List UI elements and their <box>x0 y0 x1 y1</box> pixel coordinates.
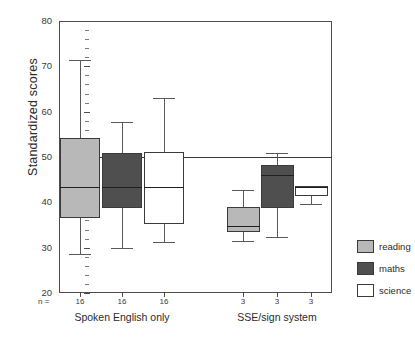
y-tick-minor <box>85 57 89 58</box>
y-tick-label: 70 <box>30 61 52 71</box>
y-tick-label: 80 <box>30 16 52 26</box>
y-tick-label: 60 <box>30 107 52 117</box>
y-tick-minor <box>85 220 89 221</box>
group-label: SSE/sign system <box>197 311 357 323</box>
y-tick-major <box>84 112 90 113</box>
median-line <box>261 175 294 176</box>
box-reading <box>60 138 100 218</box>
n-value-label: 16 <box>107 297 137 306</box>
median-line <box>295 187 328 188</box>
whisker-cap-lower <box>300 204 322 205</box>
y-tick-minor <box>85 239 89 240</box>
whisker-cap-lower <box>111 248 133 249</box>
y-tick-minor <box>85 284 89 285</box>
whisker-lower <box>277 208 278 237</box>
whisker-cap-lower <box>266 237 288 238</box>
median-line <box>60 187 100 188</box>
y-tick-major <box>84 293 90 294</box>
legend-swatch-maths <box>357 262 374 275</box>
legend-label: maths <box>379 263 405 274</box>
y-tick-minor <box>85 39 89 40</box>
y-tick-minor <box>85 230 89 231</box>
whisker-lower <box>164 224 165 242</box>
y-tick-major <box>84 248 90 249</box>
y-tick-minor <box>85 75 89 76</box>
legend-swatch-reading <box>357 240 374 253</box>
n-prefix-label: n = <box>38 297 49 306</box>
y-tick-major <box>84 21 90 22</box>
n-value-label: 16 <box>65 297 95 306</box>
whisker-cap-lower <box>232 241 254 242</box>
y-tick-minor <box>85 257 89 258</box>
whisker-cap-upper <box>266 153 288 154</box>
box-reading <box>227 207 260 232</box>
whisker-cap-lower <box>153 242 175 243</box>
legend-item-reading: reading <box>357 235 413 257</box>
whisker-lower <box>243 232 244 241</box>
whisker-lower <box>80 218 81 254</box>
whisker-upper <box>243 190 244 207</box>
whisker-cap-upper <box>153 98 175 99</box>
whisker-upper <box>80 60 81 138</box>
legend-item-science: science <box>357 279 413 301</box>
legend: readingmathsscience <box>357 235 413 301</box>
group-label: Spoken English only <box>42 311 202 323</box>
median-line <box>144 187 184 188</box>
box-maths <box>102 153 142 208</box>
y-tick-minor <box>85 94 89 95</box>
y-tick-major <box>84 66 90 67</box>
y-tick-label: 30 <box>30 243 52 253</box>
box-science <box>144 152 184 224</box>
legend-label: science <box>379 285 411 296</box>
median-line <box>227 226 260 227</box>
y-tick-minor <box>85 84 89 85</box>
y-tick-minor <box>85 130 89 131</box>
box-maths <box>261 165 294 208</box>
y-tick-label: 50 <box>30 152 52 162</box>
whisker-cap-upper <box>111 122 133 123</box>
whisker-cap-upper <box>69 60 91 61</box>
n-value-label: 3 <box>262 297 292 306</box>
legend-label: reading <box>379 241 411 252</box>
y-tick-minor <box>85 30 89 31</box>
median-line <box>102 187 142 188</box>
n-value-label: 3 <box>228 297 258 306</box>
whisker-lower <box>311 196 312 204</box>
whisker-lower <box>122 208 123 248</box>
y-tick-minor <box>85 266 89 267</box>
whisker-upper <box>164 98 165 152</box>
boxplot-figure: Standardized scores 20304050607080 n = 1… <box>0 0 415 342</box>
n-value-label: 16 <box>149 297 179 306</box>
y-tick-minor <box>85 103 89 104</box>
whisker-cap-upper <box>232 190 254 191</box>
y-tick-minor <box>85 121 89 122</box>
n-value-label: 3 <box>296 297 326 306</box>
legend-item-maths: maths <box>357 257 413 279</box>
y-tick-minor <box>85 275 89 276</box>
whisker-upper <box>122 122 123 153</box>
whisker-cap-lower <box>69 254 91 255</box>
y-tick-label: 40 <box>30 197 52 207</box>
y-tick-minor <box>85 48 89 49</box>
whisker-upper <box>277 153 278 165</box>
legend-swatch-science <box>357 284 374 297</box>
